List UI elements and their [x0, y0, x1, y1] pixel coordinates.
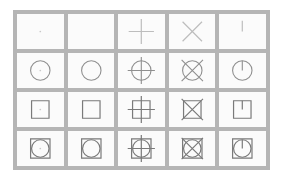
cell-r2c4-circle-x [169, 53, 216, 88]
circle-dot-icon [17, 53, 64, 88]
square-circle-cross-icon [118, 131, 165, 166]
blank-icon [68, 14, 115, 49]
x-mark-icon [169, 14, 216, 49]
square-circle-bar-icon [219, 131, 266, 166]
cell-r4c2-square-circle [68, 131, 115, 166]
square-circle-dot-icon [17, 131, 64, 166]
cell-r1c4-x-mark [169, 14, 216, 49]
dot-icon [17, 14, 64, 49]
cross-icon [118, 14, 165, 49]
cell-r1c2-blank [68, 14, 115, 49]
cell-r4c5-square-circle-bar [219, 131, 266, 166]
cell-r1c1-dot [17, 14, 64, 49]
cell-r1c3-cross [118, 14, 165, 49]
square-circle-icon [68, 131, 115, 166]
cell-r2c5-circle-bar [219, 53, 266, 88]
cell-r3c5-square-bar [219, 92, 266, 127]
cell-r2c1-circle-dot [17, 53, 64, 88]
symbol-grid [13, 10, 270, 170]
cell-r3c4-square-x [169, 92, 216, 127]
circle-cross-icon [118, 53, 165, 88]
circle-icon [68, 53, 115, 88]
circle-x-icon [169, 53, 216, 88]
square-circle-x-icon [169, 131, 216, 166]
cell-r3c3-square-cross [118, 92, 165, 127]
cell-r2c2-circle [68, 53, 115, 88]
square-x-icon [169, 92, 216, 127]
cell-r4c4-square-circle-x [169, 131, 216, 166]
bar-icon [219, 14, 266, 49]
circle-bar-icon [219, 53, 266, 88]
cell-r4c1-square-circle-dot [17, 131, 64, 166]
square-cross-icon [118, 92, 165, 127]
square-icon [68, 92, 115, 127]
square-dot-icon [17, 92, 64, 127]
cell-r3c2-square [68, 92, 115, 127]
cell-r2c3-circle-cross [118, 53, 165, 88]
symbol-matrix-figure [0, 0, 282, 180]
cell-r1c5-bar [219, 14, 266, 49]
square-bar-icon [219, 92, 266, 127]
cell-r3c1-square-dot [17, 92, 64, 127]
cell-r4c3-square-circle-cross [118, 131, 165, 166]
